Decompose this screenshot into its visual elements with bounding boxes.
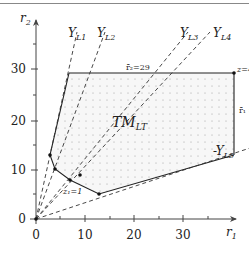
vertex-point <box>97 192 101 196</box>
annotation-z1: z₁=1 <box>62 187 82 196</box>
vertex-point <box>48 153 52 157</box>
vertex-point <box>53 167 57 171</box>
annotation-r1-bar: r̄̄₁ = 34 <box>239 106 249 115</box>
y-axis-label: r2 <box>20 11 31 27</box>
vertex-point-z4 <box>232 71 236 75</box>
svg-text:30: 30 <box>11 62 26 76</box>
diagram-canvas: 0 10 20 30 0 10 20 30 r1 r2 YL1 YL2 YL3 … <box>0 0 249 254</box>
svg-text:10: 10 <box>11 163 26 177</box>
annotation-r2-bar: r̄̄₂=29 <box>126 63 150 72</box>
vertex-point <box>68 178 72 182</box>
svg-text:0: 0 <box>32 228 40 242</box>
vertex-point <box>34 217 38 221</box>
svg-text:20: 20 <box>126 228 141 242</box>
svg-text:0: 0 <box>18 212 26 226</box>
annotation-z4: z=4 <box>236 65 249 74</box>
x-axis-label: r1 <box>226 225 237 241</box>
svg-text:10: 10 <box>77 228 92 242</box>
label-yl2: YL2 <box>97 26 115 42</box>
x-tick-labels: 0 10 20 30 <box>32 228 190 242</box>
label-yl1: YL1 <box>68 26 86 42</box>
svg-text:30: 30 <box>175 228 190 242</box>
label-yl4: YL4 <box>213 26 231 42</box>
y-tick-labels: 0 10 20 30 <box>11 62 26 226</box>
label-yl3: YL3 <box>180 26 198 42</box>
vertex-point <box>78 173 82 177</box>
region-tm-lt <box>50 73 234 194</box>
svg-text:20: 20 <box>11 114 26 128</box>
